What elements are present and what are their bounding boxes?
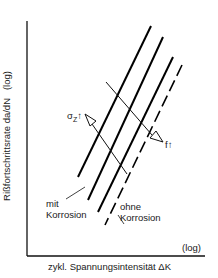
mit-line1: mit <box>46 198 87 209</box>
freq-label: f↑ <box>165 139 172 150</box>
ohne-line2: Korrosion <box>120 212 161 223</box>
sigma-label: σZ↑ <box>67 110 82 125</box>
sigma-arrow-shaft <box>92 124 127 174</box>
x-axis-label: zykl. Spannungsintensität ΔK <box>48 261 171 272</box>
y-axis-log: (log) <box>1 71 12 90</box>
ohne-line1: ohne <box>120 201 161 212</box>
sigma-up-arrow-icon: ↑ <box>77 110 82 121</box>
sigma-arrow-head <box>85 114 96 126</box>
freq-arrow-shaft <box>106 82 152 135</box>
mit-korrosion-label: mit Korrosion <box>46 198 87 220</box>
y-axis-label: Rißfortschrittsrate da/dN (log) <box>1 71 12 201</box>
curve-line-2 <box>88 37 163 200</box>
mit-line2: Korrosion <box>46 209 87 220</box>
y-axis-title: Rißfortschrittsrate da/dN <box>1 98 12 201</box>
diagram-canvas <box>0 0 218 278</box>
ohne-korrosion-label: ohne Korrosion <box>120 201 161 223</box>
x-axis-log: (log) <box>182 242 201 253</box>
freq-arrow-head <box>150 131 163 142</box>
curve-line-1 <box>78 26 151 177</box>
curve-line-3 <box>98 57 173 212</box>
